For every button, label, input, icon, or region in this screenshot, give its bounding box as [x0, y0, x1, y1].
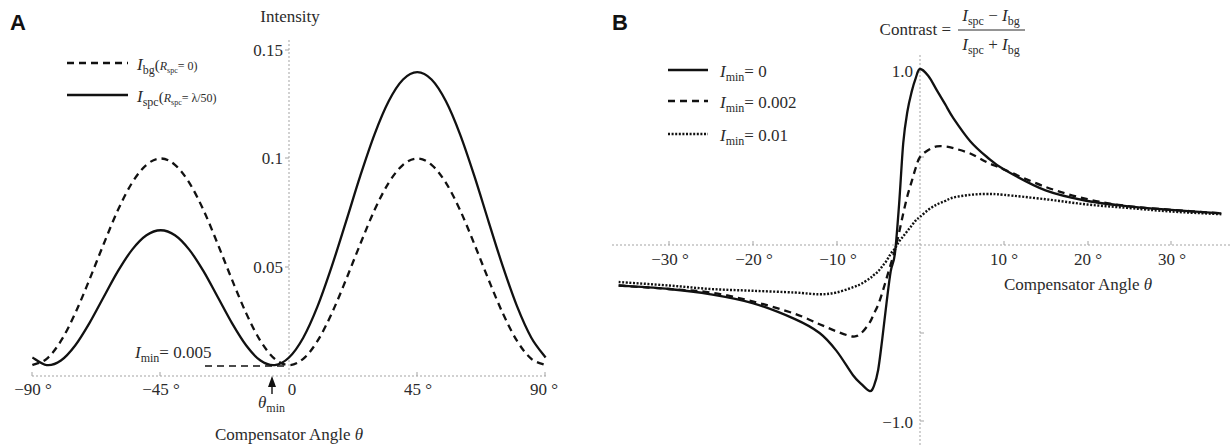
legend-item-imin-0002: Imin= 0.002	[668, 93, 796, 115]
x-tick-label: −30 °	[651, 250, 689, 269]
x-tick-label: 30 °	[1158, 250, 1186, 269]
legend-item-ibg: Ibg(Rspc= 0)	[67, 55, 197, 77]
panel-b-plot-area	[619, 69, 1222, 391]
y-tick-label: −1.0	[882, 413, 913, 432]
x-tick-label: −90 °	[14, 380, 52, 399]
x-tick-label: 0	[288, 380, 297, 399]
figure: A −90 ° −45 ° 0 45 ° 90 ° 0.05 0.1 0.15 …	[0, 0, 1231, 447]
panel-a-y-ticks: 0.05 0.1 0.15	[253, 41, 289, 277]
x-tick-label: 45 °	[404, 380, 432, 399]
theta-min-label: θmin	[258, 393, 285, 415]
legend-label: Ibg(Rspc= 0)	[136, 55, 197, 77]
legend-item-imin-0: Imin= 0	[668, 62, 767, 84]
x-tick-label: −45 °	[142, 380, 180, 399]
x-tick-label: 10 °	[990, 250, 1018, 269]
panel-a: A −90 ° −45 ° 0 45 ° 90 ° 0.05 0.1 0.15 …	[10, 7, 558, 444]
panel-a-letter: A	[10, 10, 26, 35]
legend-label: Imin= 0.01	[719, 126, 788, 148]
legend-label: Imin= 0.002	[719, 93, 796, 115]
theta-min-annotation: θmin	[258, 376, 285, 415]
legend-item-imin-001: Imin= 0.01	[668, 126, 788, 148]
panel-b-legend: Imin= 0 Imin= 0.002 Imin= 0.01	[668, 62, 796, 148]
panel-b-x-axis-title: Compensator Angle θ	[1004, 275, 1152, 294]
formula-denominator: Ispc + Ibg	[961, 35, 1019, 57]
arrow-up-icon	[268, 376, 276, 387]
x-tick-label: −10 °	[819, 250, 857, 269]
curve-imin-0	[619, 69, 1222, 391]
y-tick-label: 0.1	[262, 149, 283, 168]
y-tick-label: 0.15	[253, 41, 283, 60]
panel-b: B −30 ° −20 ° −10 ° 10 ° 20 ° 30 ° 1.0	[612, 6, 1231, 447]
panel-a-x-axis-title: Compensator Angle θ	[215, 425, 363, 444]
y-tick-label: 1.0	[892, 62, 913, 81]
panel-a-legend: Ibg(Rspc= 0) Ispc(Rspc= λ/50)	[67, 55, 217, 109]
formula-numerator: Ispc − Ibg	[961, 6, 1019, 28]
imin-label: Imin= 0.005	[134, 343, 211, 365]
panel-a-y-axis-title: Intensity	[260, 7, 320, 26]
panel-b-y-ticks: 1.0 −1.0	[882, 62, 924, 432]
panel-b-letter: B	[612, 10, 628, 35]
y-tick-label: 0.05	[253, 258, 283, 277]
x-tick-label: 90 °	[530, 380, 558, 399]
x-tick-label: 20 °	[1074, 250, 1102, 269]
legend-label: Ispc(Rspc= λ/50)	[136, 87, 217, 109]
panel-b-y-axis-title: Contrast = Ispc − Ibg Ispc + Ibg	[880, 6, 1025, 57]
x-tick-label: −20 °	[735, 250, 773, 269]
legend-label: Imin= 0	[719, 62, 767, 84]
legend-item-ispc: Ispc(Rspc= λ/50)	[67, 87, 217, 109]
contrast-label: Contrast =	[880, 20, 951, 39]
